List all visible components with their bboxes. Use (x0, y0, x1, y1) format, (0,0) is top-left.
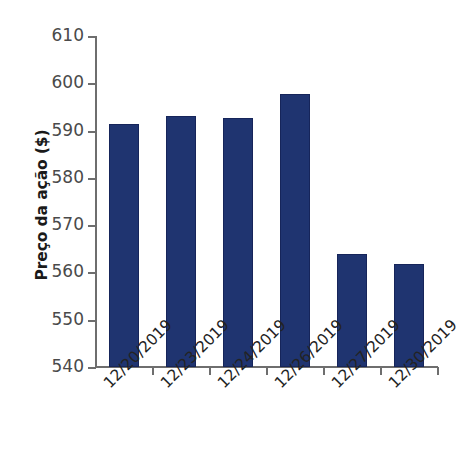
bar-chart: Preço da ação ($) 5405505605705805906006… (0, 0, 459, 474)
x-axis-tick-labels: 12/20/201912/23/201912/24/201912/26/2019… (0, 0, 459, 474)
